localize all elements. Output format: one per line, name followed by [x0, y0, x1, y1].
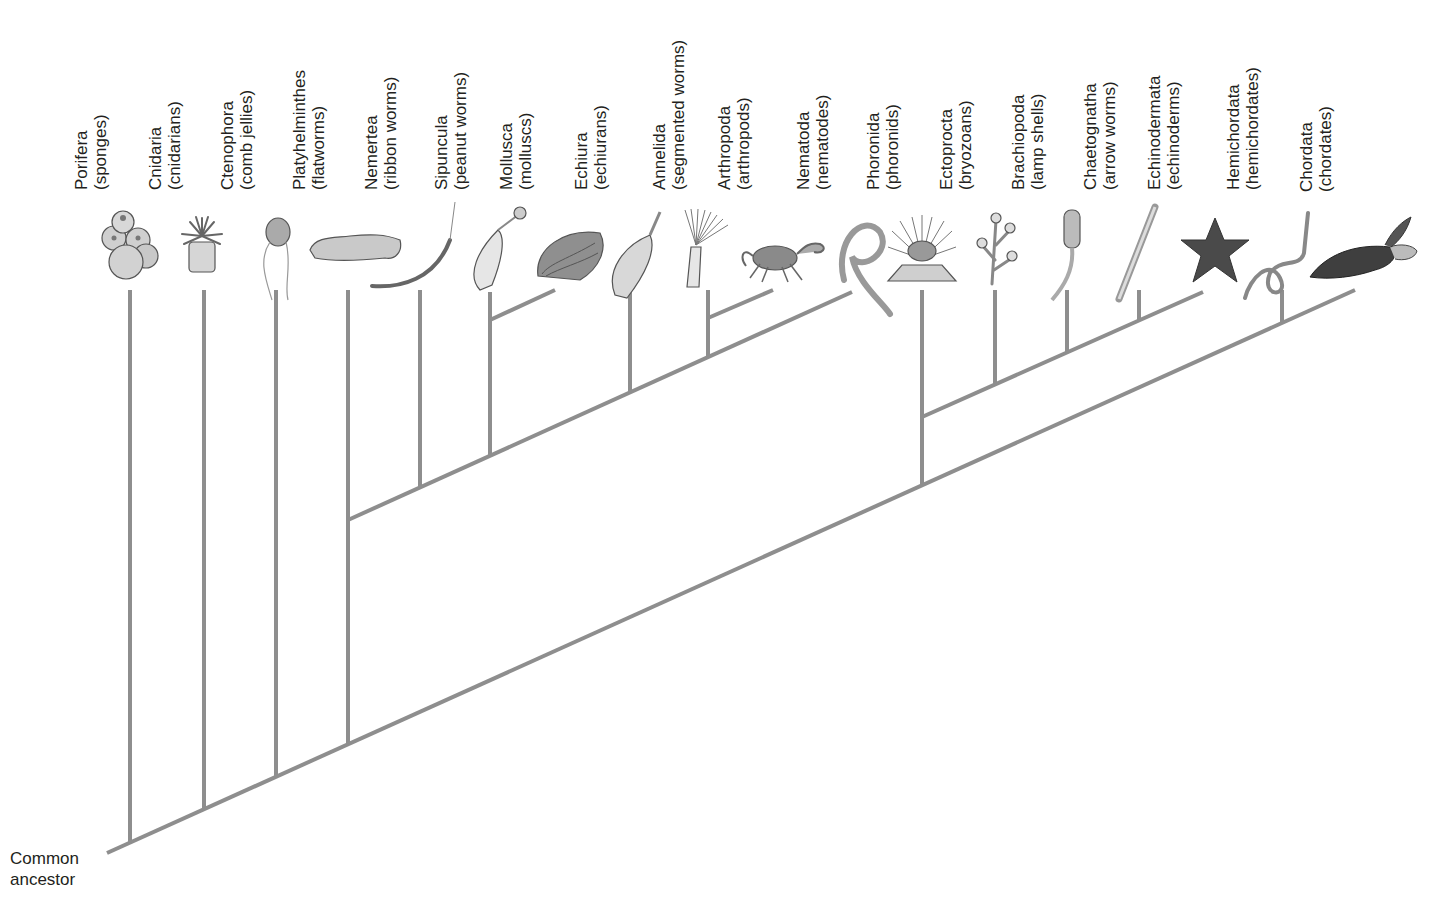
taxon-name: Mollusca	[497, 113, 516, 190]
arrow-worm-icon	[1119, 207, 1155, 299]
taxon-common-name: (bryozoans)	[956, 100, 975, 190]
taxon-name: Hemichordata	[1224, 67, 1243, 190]
taxon-common-name: (phoronids)	[883, 104, 902, 190]
taxon-name: Brachiopoda	[1009, 94, 1028, 190]
taxon-common-name: (hemichordates)	[1243, 67, 1262, 190]
taxon-common-name: (peanut worms)	[451, 72, 470, 190]
taxon-name: Annelida	[650, 40, 669, 190]
taxon-common-name: (cnidarians)	[165, 101, 184, 190]
taxon-name: Cnidaria	[146, 101, 165, 190]
taxon-common-name: (sponges)	[91, 114, 110, 190]
taxon-name: Arthropoda	[715, 97, 734, 190]
roundworm-icon	[842, 226, 890, 314]
taxon-name: Nemertea	[362, 77, 381, 190]
taxon-name: Chaetognatha	[1081, 81, 1100, 190]
echiuran-icon	[612, 212, 660, 298]
lamp-shell-icon	[1052, 210, 1080, 300]
lophophorate-branch-line	[922, 292, 1203, 417]
main-trunk-line	[107, 290, 1355, 853]
taxon-common-name: (chordates)	[1316, 106, 1335, 192]
sponge-icon	[102, 211, 158, 279]
phoronid-icon	[888, 215, 956, 281]
acorn-worm-icon	[1245, 213, 1308, 298]
crab-icon	[743, 243, 824, 282]
taxon-common-name: (flatworms)	[309, 70, 328, 190]
taxon-common-name: (ribbon worms)	[381, 77, 400, 190]
taxon-name: Ectoprocta	[937, 100, 956, 190]
taxon-common-name: (segmented worms)	[669, 40, 688, 190]
taxon-name: Porifera	[72, 114, 91, 190]
taxon-name: Sipuncula	[432, 72, 451, 190]
taxon-name: Platyhelminthes	[290, 70, 309, 190]
sipuncula-mollusca-branch-line	[490, 290, 555, 320]
sea-anemone-icon	[182, 217, 222, 272]
bryozoan-icon	[977, 213, 1017, 284]
clam-icon	[538, 232, 603, 280]
peanut-worm-icon	[474, 207, 526, 290]
comb-jelly-icon	[264, 218, 290, 300]
taxon-name: Echinodermata	[1145, 76, 1164, 190]
flatworm-icon	[310, 235, 401, 261]
taxon-common-name: (nematodes)	[813, 95, 832, 190]
taxon-common-name: (echiurans)	[591, 105, 610, 190]
taxon-name: Phoronida	[864, 104, 883, 190]
sea-turtle-icon	[1310, 217, 1417, 278]
taxon-name: Chordata	[1297, 106, 1316, 192]
taxon-common-name: (arrow worms)	[1100, 81, 1119, 190]
taxon-name: Nematoda	[794, 95, 813, 190]
annelida-arthropoda-branch-line	[708, 290, 773, 318]
tree-branches	[107, 290, 1355, 853]
common-ancestor-label: Common ancestor	[10, 848, 100, 890]
taxon-common-name: (arthropods)	[734, 97, 753, 190]
sea-star-icon	[1181, 218, 1249, 282]
taxon-common-name: (lamp shells)	[1028, 94, 1047, 190]
root-label-text: Common ancestor	[10, 848, 100, 890]
taxon-common-name: (comb jellies)	[237, 90, 256, 190]
protostome-branch-line	[348, 292, 852, 520]
taxon-name: Ctenophora	[218, 90, 237, 190]
tube-worm-icon	[685, 209, 728, 287]
taxon-common-name: (molluscs)	[516, 113, 535, 190]
taxon-common-name: (echinoderms)	[1164, 76, 1183, 190]
taxon-name: Echiura	[572, 105, 591, 190]
